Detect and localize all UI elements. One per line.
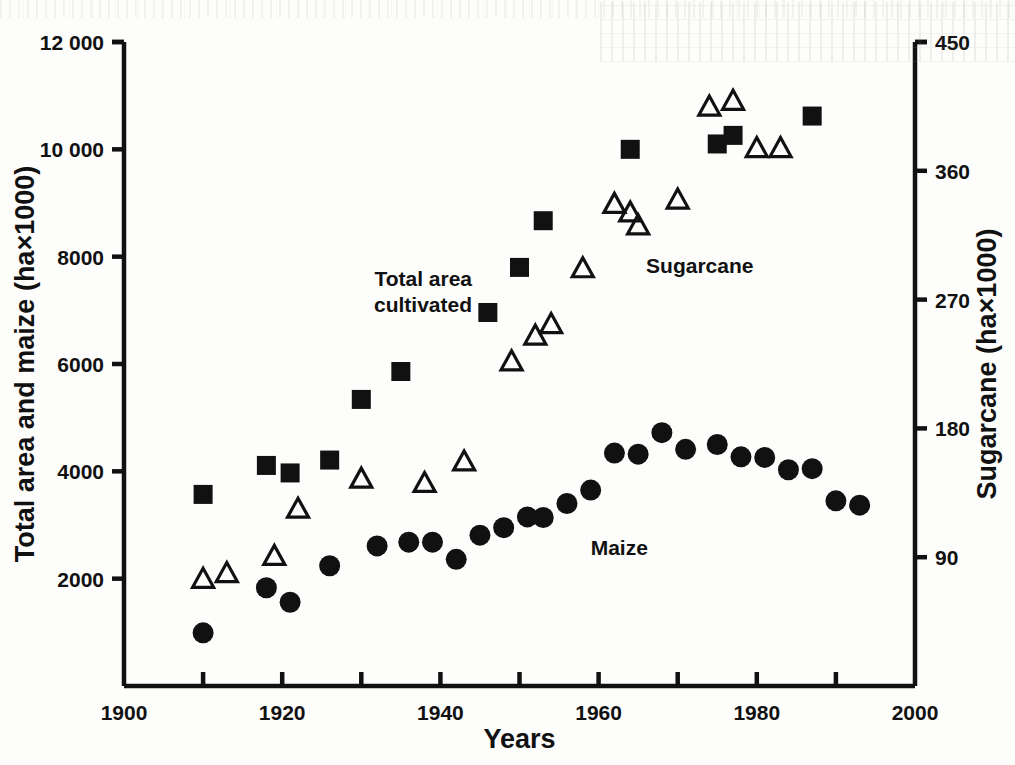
data-point-circle	[802, 458, 823, 479]
data-point-circle	[367, 535, 388, 556]
data-point-triangle	[216, 563, 237, 582]
series-circle	[193, 422, 871, 643]
y2-axis-tick-label: 90	[935, 546, 958, 569]
x-axis-tick-label: 1900	[101, 701, 148, 724]
data-point-circle	[280, 592, 301, 613]
x-axis-tick-label: 2000	[892, 701, 939, 724]
data-point-triangle	[572, 258, 593, 277]
data-point-square	[478, 303, 497, 322]
series-annotation-line: cultivated	[374, 293, 472, 316]
data-point-circle	[604, 443, 625, 464]
y-axis-tick-label: 8000	[57, 246, 104, 269]
data-point-triangle	[351, 468, 372, 487]
series-annotation-line: Sugarcane	[646, 254, 753, 277]
axis-titles: YearsTotal area and maize (ha×1000)Sugar…	[10, 166, 1002, 754]
data-point-square	[510, 258, 529, 277]
data-point-square	[724, 126, 743, 145]
data-point-triangle	[723, 90, 744, 109]
y-axis-tick-label: 4000	[57, 460, 104, 483]
y-axis-title: Total area and maize (ha×1000)	[10, 166, 40, 562]
data-point-square	[621, 140, 640, 159]
data-point-circle	[849, 495, 870, 516]
data-point-triangle	[501, 351, 522, 370]
data-point-square	[391, 362, 410, 381]
x-axis-tick-label: 1920	[259, 701, 306, 724]
series-triangle	[193, 90, 791, 587]
data-point-square	[281, 463, 300, 482]
x-axis-tick-label: 1960	[575, 701, 622, 724]
data-point-triangle	[193, 568, 214, 587]
x-axis-title: Years	[483, 724, 555, 754]
data-point-triangle	[454, 451, 475, 470]
series-annotation: Sugarcane	[646, 254, 753, 277]
y-axis-tick-label: 12 000	[40, 31, 104, 54]
y2-axis-tick-label: 360	[935, 160, 970, 183]
data-point-triangle	[699, 96, 720, 115]
y-axis-tick-label: 10 000	[40, 138, 104, 161]
data-point-circle	[533, 507, 554, 528]
data-point-triangle	[604, 193, 625, 212]
y2-axis-tick-label: 450	[935, 31, 970, 54]
scatter-plot-canvas: 200040006000800010 00012 000901802703604…	[0, 0, 1015, 765]
data-point-circle	[707, 434, 728, 455]
data-point-square	[352, 390, 371, 409]
data-point-triangle	[770, 138, 791, 157]
y2-axis-tick-label: 180	[935, 417, 970, 440]
data-point-square	[194, 485, 213, 504]
series-annotation-line: Maize	[591, 536, 648, 559]
series-annotation-line: Total area	[374, 267, 472, 290]
data-point-circle	[825, 490, 846, 511]
data-point-square	[257, 456, 276, 475]
series-annotation: Total areacultivated	[374, 267, 472, 316]
data-point-triangle	[667, 189, 688, 208]
data-point-triangle	[288, 498, 309, 517]
data-point-triangle	[414, 472, 435, 491]
data-point-circle	[730, 446, 751, 467]
data-point-circle	[319, 555, 340, 576]
data-points	[193, 90, 871, 643]
x-axis-tick-label: 1980	[733, 701, 780, 724]
axis-tick-labels: 200040006000800010 00012 000901802703604…	[40, 31, 970, 724]
data-point-square	[320, 451, 339, 470]
data-point-circle	[754, 447, 775, 468]
series-annotation: Maize	[591, 536, 648, 559]
data-point-circle	[422, 532, 443, 553]
data-point-square	[803, 107, 822, 126]
data-point-triangle	[628, 215, 649, 234]
data-point-circle	[398, 532, 419, 553]
y2-axis-tick-label: 270	[935, 289, 970, 312]
data-point-circle	[446, 549, 467, 570]
data-point-triangle	[264, 545, 285, 564]
x-axis-tick-label: 1940	[417, 701, 464, 724]
y-axis-tick-label: 6000	[57, 353, 104, 376]
chart-figure: 200040006000800010 00012 000901802703604…	[0, 0, 1015, 765]
data-point-circle	[469, 525, 490, 546]
data-point-circle	[628, 444, 649, 465]
y-axis-tick-label: 2000	[57, 568, 104, 591]
data-point-circle	[256, 577, 277, 598]
data-point-square	[534, 211, 553, 230]
data-point-circle	[493, 517, 514, 538]
y2-axis-title: Sugarcane (ha×1000)	[972, 229, 1002, 500]
data-point-circle	[556, 493, 577, 514]
data-point-circle	[778, 459, 799, 480]
data-point-circle	[580, 480, 601, 501]
data-point-circle	[193, 622, 214, 643]
data-point-triangle	[541, 314, 562, 333]
data-point-triangle	[746, 138, 767, 157]
data-point-circle	[651, 422, 672, 443]
data-point-circle	[675, 439, 696, 460]
